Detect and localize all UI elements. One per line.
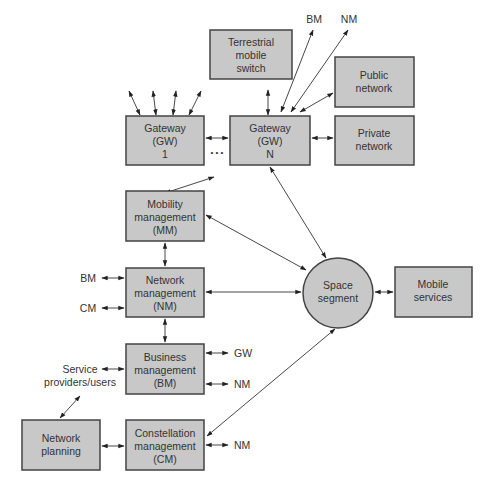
node-label: network — [356, 82, 394, 94]
node-label: Network — [146, 274, 185, 286]
label-cm-right-nm: NM — [234, 439, 250, 451]
node-label: N — [266, 148, 274, 160]
label-top-bm: BM — [306, 13, 322, 25]
node-public-network: Public network — [335, 57, 414, 107]
node-network-management: Network management (NM) — [126, 268, 204, 317]
node-label: services — [414, 291, 453, 303]
node-gateway-1: Gateway (GW) 1 — [126, 116, 204, 165]
node-label: planning — [41, 445, 81, 457]
node-label: Mobility — [147, 198, 183, 210]
node-label: Mobile — [418, 278, 449, 290]
node-label: network — [356, 140, 394, 152]
node-private-network: Private network — [335, 116, 414, 165]
node-gateway-n: Gateway (GW) N — [230, 116, 310, 165]
node-label: (GW) — [257, 135, 282, 147]
label-service-providers: Service — [62, 363, 97, 375]
node-network-planning: Network planning — [22, 420, 100, 470]
node-label: (CM) — [153, 453, 176, 465]
network-architecture-diagram: Terrestrial mobile switch Gateway (GW) 1… — [0, 0, 492, 493]
node-label: segment — [318, 292, 358, 304]
node-label: Business — [144, 351, 187, 363]
node-label: management — [134, 364, 195, 376]
node-label: management — [134, 211, 195, 223]
node-label: Constellation — [135, 427, 196, 439]
node-label: Public — [360, 69, 389, 81]
label-bm-right-nm: NM — [234, 378, 250, 390]
label-service-providers: providers/users — [44, 376, 116, 388]
ellipsis: • • • — [211, 148, 224, 157]
node-label: Gateway — [249, 122, 291, 134]
node-label: management — [134, 287, 195, 299]
label-nm-left-bm: BM — [80, 272, 96, 284]
label-top-nm: NM — [341, 13, 357, 25]
node-label: Network — [42, 432, 81, 444]
node-label: 1 — [162, 148, 168, 160]
node-label: mobile — [236, 49, 267, 61]
node-mobile-services: Mobile services — [395, 267, 472, 317]
node-label: (MM) — [153, 224, 178, 236]
node-mobility-management: Mobility management (MM) — [126, 191, 204, 241]
node-label: Space — [323, 279, 353, 291]
node-label: Terrestrial — [228, 36, 274, 48]
node-space-segment: Space segment — [303, 258, 373, 328]
label-bm-right-gw: GW — [234, 347, 252, 359]
node-label: management — [134, 440, 195, 452]
label-nm-left-cm: CM — [80, 302, 96, 314]
node-label: Gateway — [144, 122, 186, 134]
node-label: (GW) — [152, 135, 177, 147]
node-business-management: Business management (BM) — [126, 344, 204, 394]
node-terrestrial-mobile-switch: Terrestrial mobile switch — [210, 30, 292, 79]
node-constellation-management: Constellation management (CM) — [126, 420, 204, 470]
node-label: Private — [358, 127, 391, 139]
node-label: (NM) — [153, 300, 176, 312]
node-label: switch — [236, 62, 265, 74]
node-label: (BM) — [154, 377, 177, 389]
